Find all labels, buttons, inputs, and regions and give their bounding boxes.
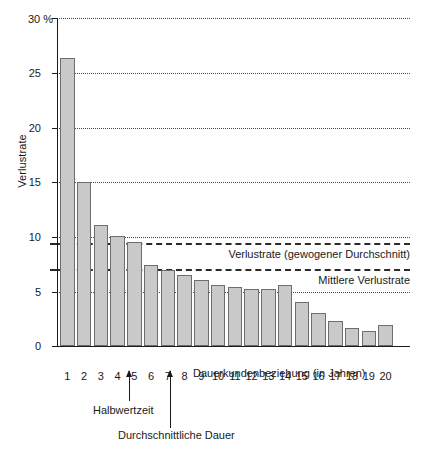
xtick-label-2: 2 <box>81 370 87 382</box>
bar-7 <box>161 270 175 346</box>
bar-2 <box>77 182 91 347</box>
x-axis-title: Dauerkundenbeziehung (in Jahren) <box>193 367 365 379</box>
gridline-25 <box>57 73 410 74</box>
bar-17 <box>328 321 342 346</box>
xtick-label-4: 4 <box>115 370 121 382</box>
bar-9 <box>194 280 208 346</box>
ytick-label-10: 10 <box>7 232 41 243</box>
gridline-15 <box>57 182 410 183</box>
bar-3 <box>94 225 108 346</box>
bar-19 <box>362 331 376 346</box>
bar-11 <box>228 287 242 346</box>
y-axis-unit-label: 30 % <box>19 13 53 25</box>
gridline-20 <box>57 128 410 129</box>
ytick-label-5: 5 <box>7 287 41 298</box>
ytick-label-0: 0 <box>7 341 41 352</box>
arrow-average-duration <box>170 371 171 428</box>
plot-area: Verlustrate (gewogener Durchschnitt) Mit… <box>57 18 410 347</box>
bar-6 <box>144 265 158 346</box>
loss-rate-bar-chart: Verlustrate 30 % Verlustrate (gewogener … <box>0 0 421 452</box>
bar-5 <box>127 242 141 346</box>
bar-4 <box>110 236 124 346</box>
annotation-half-life: Halbwertzeit <box>93 404 154 416</box>
bar-10 <box>211 285 225 346</box>
bar-15 <box>295 302 309 346</box>
xtick-label-8: 8 <box>182 370 188 382</box>
xtick-label-3: 3 <box>98 370 104 382</box>
y-axis-title: Verlustrate <box>16 101 28 221</box>
ytick-label-15: 15 <box>7 177 41 188</box>
annotation-average-duration: Durchschnittliche Dauer <box>118 429 235 441</box>
bar-13 <box>261 289 275 346</box>
bar-12 <box>244 289 258 346</box>
gridline-30 <box>57 18 410 19</box>
bar-1 <box>60 58 74 346</box>
ytick-label-20: 20 <box>7 123 41 134</box>
xtick-label-1: 1 <box>64 370 70 382</box>
xtick-label-20: 20 <box>380 370 392 382</box>
bar-18 <box>345 328 359 346</box>
ytick-mark-weighted-average <box>50 243 57 245</box>
x-axis-line <box>57 346 410 347</box>
xtick-label-5: 5 <box>131 370 137 382</box>
xtick-label-6: 6 <box>148 370 154 382</box>
bar-16 <box>311 313 325 346</box>
ytick-mark-mean-loss-rate <box>50 269 57 271</box>
ytick-label-25: 25 <box>7 68 41 79</box>
y-axis-line <box>57 18 58 347</box>
reference-label-weighted-average: Verlustrate (gewogener Durchschnitt) <box>190 248 410 260</box>
bar-14 <box>278 285 292 346</box>
bar-20 <box>378 325 392 346</box>
bar-8 <box>177 275 191 346</box>
arrow-half-life <box>129 371 130 401</box>
